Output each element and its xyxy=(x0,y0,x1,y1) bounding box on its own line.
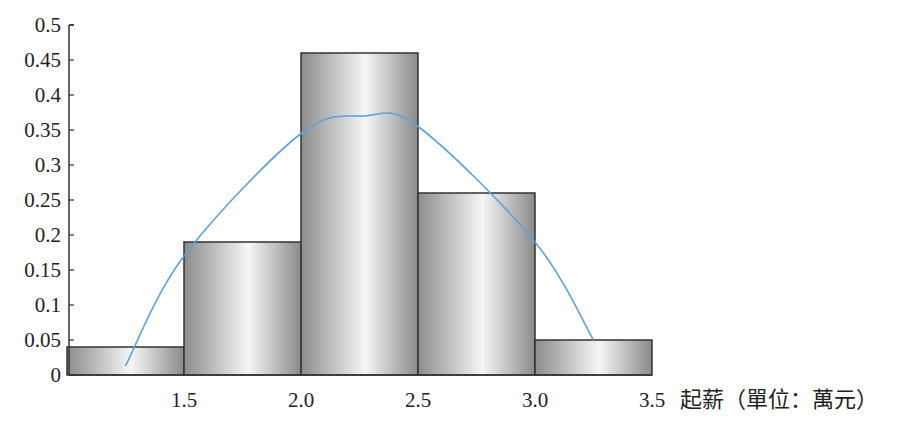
histogram-bar xyxy=(301,53,418,375)
y-tick-label: 0.35 xyxy=(24,118,61,142)
histogram-bar xyxy=(418,193,535,375)
histogram-bars xyxy=(67,53,652,375)
x-tick-label: 2.5 xyxy=(405,388,431,412)
histogram-bar xyxy=(535,340,652,375)
x-axis: 1.52.02.53.03.5 xyxy=(69,375,665,412)
y-tick-label: 0.1 xyxy=(35,293,61,317)
y-tick-label: 0.4 xyxy=(35,83,62,107)
y-tick-label: 0.05 xyxy=(24,328,61,352)
y-tick-label: 0.3 xyxy=(35,153,61,177)
y-tick-label: 0.15 xyxy=(24,258,61,282)
x-tick-label: 3.0 xyxy=(522,388,548,412)
y-tick-label: 0.25 xyxy=(24,188,61,212)
y-tick-label: 0.2 xyxy=(35,223,61,247)
x-tick-label: 3.5 xyxy=(639,388,665,412)
x-tick-label: 1.5 xyxy=(171,388,197,412)
histogram-bar xyxy=(184,242,301,375)
x-axis-label: 起薪（單位：萬元） xyxy=(680,387,878,412)
y-axis: 00.050.10.150.20.250.30.350.40.450.5 xyxy=(24,13,74,387)
y-tick-label: 0.45 xyxy=(24,48,61,72)
x-tick-label: 2.0 xyxy=(288,388,314,412)
y-tick-label: 0 xyxy=(51,363,62,387)
histogram-bar xyxy=(67,347,184,375)
y-tick-label: 0.5 xyxy=(35,13,61,37)
histogram-chart: 00.050.10.150.20.250.30.350.40.450.5 1.5… xyxy=(0,0,911,437)
